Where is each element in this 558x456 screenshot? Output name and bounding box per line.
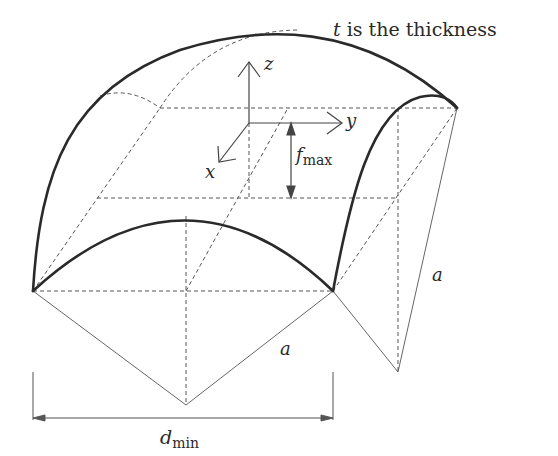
right-side-a-label: a — [432, 266, 443, 284]
shell-edges — [33, 34, 457, 291]
thickness-text: is the thickness — [341, 18, 497, 40]
thickness-note: t is the thickness — [333, 20, 497, 39]
dmin-sub: min — [172, 435, 199, 451]
fmax-label: fmax — [296, 146, 332, 164]
shell-diagram — [0, 0, 558, 456]
z-axis-label: z — [264, 55, 273, 73]
x-axis — [219, 123, 249, 162]
dmin-label: dmin — [160, 428, 199, 447]
dmin-dimension — [33, 372, 333, 421]
x-axis-label: x — [205, 163, 215, 181]
y-axis-label: y — [346, 112, 356, 130]
fmax-main: f — [296, 144, 303, 165]
base-lines — [33, 108, 457, 405]
front-side-a-label: a — [280, 340, 291, 358]
fmax-dimension — [287, 123, 295, 198]
dmin-main: d — [160, 426, 172, 448]
fmax-sub: max — [303, 152, 333, 168]
thickness-variable: t — [333, 18, 341, 40]
construction-lines — [33, 30, 457, 405]
